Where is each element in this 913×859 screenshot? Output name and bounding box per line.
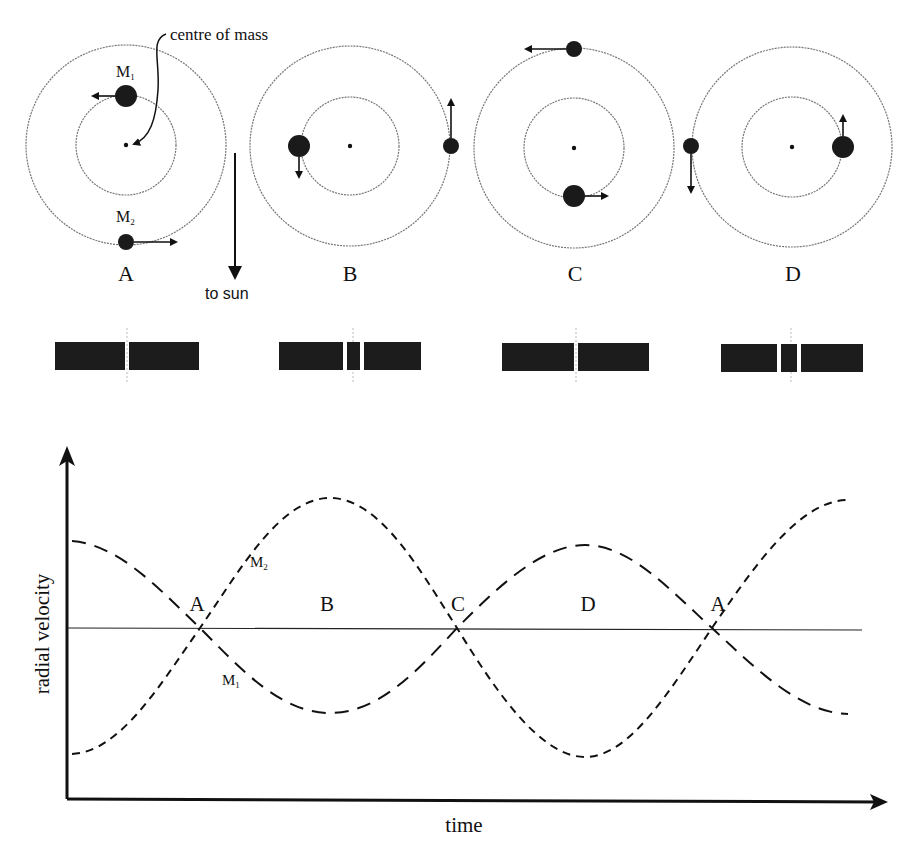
spectrum-band xyxy=(721,344,777,372)
spectrum-band xyxy=(781,344,797,372)
phase-label-a-repeat: A xyxy=(710,592,726,616)
spectrum-band xyxy=(502,343,574,371)
spectrum-band xyxy=(364,342,421,370)
phase-label-c: C xyxy=(451,592,465,616)
phase-label-d: D xyxy=(580,592,595,616)
y-axis-title: radial velocity xyxy=(30,573,54,694)
phase-label-b: B xyxy=(320,592,334,616)
spectrum-band xyxy=(279,342,343,370)
phase-label-a: A xyxy=(189,592,205,616)
spectrum-band xyxy=(55,342,125,370)
figure-lower-clean: M2 M1 A B C D A radial velocity time xyxy=(0,0,913,859)
spectrum-band xyxy=(347,342,360,370)
spectrum-band xyxy=(578,343,649,371)
spectrum-band xyxy=(129,342,199,370)
x-axis-title: time xyxy=(445,813,482,837)
lower-background xyxy=(0,318,913,859)
spectrum-band xyxy=(801,344,863,372)
